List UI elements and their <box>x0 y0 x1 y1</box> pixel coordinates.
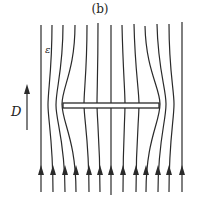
field-diagram <box>0 0 200 199</box>
dielectric-plate <box>63 103 159 108</box>
d-arrow-head <box>24 84 30 94</box>
